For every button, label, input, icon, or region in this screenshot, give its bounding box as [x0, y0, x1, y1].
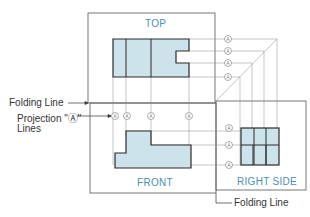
- svg-text:A: A: [226, 61, 229, 66]
- svg-text:A: A: [227, 163, 230, 168]
- svg-text:A: A: [149, 114, 152, 119]
- folding-line-label-left: Folding Line: [9, 97, 63, 108]
- svg-text:A: A: [227, 126, 230, 131]
- projection-lines-label-line2: Lines: [17, 123, 41, 134]
- right-side-view-label: RIGHT SIDE: [237, 176, 297, 187]
- svg-text:A: A: [187, 114, 190, 119]
- right-side-view-shape: [241, 128, 279, 165]
- top-view-label: TOP: [145, 18, 166, 29]
- folding-line-label-bottom: Folding Line: [234, 197, 288, 208]
- svg-text:A: A: [113, 114, 116, 119]
- top-view-shape: [113, 39, 189, 77]
- svg-text:A: A: [226, 37, 229, 42]
- svg-text:A: A: [125, 114, 128, 119]
- svg-text:A: A: [226, 75, 229, 80]
- svg-text:A: A: [226, 49, 229, 54]
- svg-text:A: A: [227, 143, 230, 148]
- front-view-label: FRONT: [137, 177, 173, 188]
- front-view-shape: [115, 131, 191, 168]
